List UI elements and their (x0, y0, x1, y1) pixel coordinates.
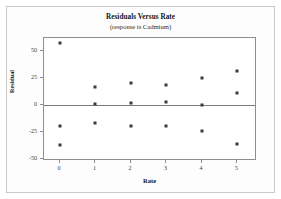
x-tick-mark (236, 160, 237, 163)
plot-panel (43, 37, 256, 160)
x-tick-label: 0 (51, 165, 67, 171)
data-point (200, 76, 203, 79)
data-point (200, 129, 203, 132)
y-tick-label: 0 (13, 101, 37, 107)
x-tick-mark (201, 160, 202, 163)
data-point (129, 82, 132, 85)
chart-subtitle: (response is Cadmium) (20, 22, 261, 31)
x-tick-mark (94, 160, 95, 163)
y-tick-label: 25 (13, 74, 37, 80)
data-point (94, 122, 97, 125)
chart-title: Residuals Versus Rate (20, 13, 261, 22)
x-tick-mark (59, 160, 60, 163)
y-tick-label: -25 (13, 128, 37, 134)
data-point (165, 100, 168, 103)
x-tick-label: 2 (122, 165, 138, 171)
x-tick-label: 5 (228, 165, 244, 171)
x-tick-mark (165, 160, 166, 163)
y-tick-label: 50 (13, 47, 37, 53)
y-axis-title: Residual (8, 57, 15, 107)
data-point (58, 143, 61, 146)
x-tick-mark (130, 160, 131, 163)
data-point (94, 102, 97, 105)
data-point (236, 70, 239, 73)
data-point (129, 101, 132, 104)
screenshot-root: Residuals Versus Rate (response is Cadmi… (0, 0, 281, 199)
data-point (165, 125, 168, 128)
y-tick-label: -50 (13, 155, 37, 161)
x-tick-label: 3 (157, 165, 173, 171)
residual-plot-graph: Residuals Versus Rate (response is Cadmi… (0, 0, 281, 199)
data-point (58, 125, 61, 128)
data-point (236, 92, 239, 95)
data-point (236, 142, 239, 145)
x-axis-title: Rate (43, 177, 256, 184)
x-tick-label: 1 (86, 165, 102, 171)
data-point (165, 84, 168, 87)
data-point (94, 85, 97, 88)
data-point (129, 125, 132, 128)
data-point (200, 103, 203, 106)
data-point (58, 42, 61, 45)
title-block: Residuals Versus Rate (response is Cadmi… (20, 13, 261, 31)
plot-inner (44, 38, 255, 159)
x-tick-label: 4 (193, 165, 209, 171)
zero-reference-line (44, 105, 255, 106)
